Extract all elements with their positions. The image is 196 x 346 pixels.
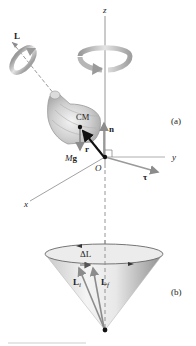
part-b-label: (b): [171, 288, 182, 297]
spinning-top-body: [48, 91, 101, 144]
torque-label: τ: [143, 173, 147, 182]
spin-rotation-icon: [7, 43, 39, 76]
origin-dot: [103, 155, 107, 159]
torque-vector: [105, 157, 158, 172]
spinning-top-precession-figure: z L CM n (a) r Mg y O τ x ΔL Li Lf (b): [0, 0, 196, 346]
L-final-subscript: f: [107, 281, 109, 289]
angular-momentum-label: L: [14, 32, 20, 41]
z-axis-label: z: [103, 6, 107, 15]
footer-divider: [8, 342, 86, 344]
diagram-canvas: [0, 0, 196, 346]
part-a-label: (a): [171, 117, 181, 126]
center-of-mass-label: CM: [76, 113, 89, 122]
L-initial-subscript: i: [79, 281, 81, 289]
weight-label: Mg: [65, 154, 77, 163]
normal-force-label: n: [109, 125, 114, 134]
position-vector-label: r: [85, 145, 89, 154]
weight-M: M: [65, 153, 73, 163]
origin-label: O: [95, 164, 102, 173]
cone-apex-dot: [103, 328, 108, 333]
y-axis-label: y: [172, 153, 176, 162]
weight-g: g: [73, 153, 78, 163]
L-final-label: Lf: [101, 278, 109, 289]
x-axis: [30, 157, 105, 201]
L-initial-label: Li: [73, 278, 81, 289]
x-axis-label: x: [24, 200, 28, 209]
center-of-mass-dot: [78, 125, 82, 129]
delta-L-label: ΔL: [80, 250, 91, 259]
L-arrow-head: [12, 42, 18, 48]
